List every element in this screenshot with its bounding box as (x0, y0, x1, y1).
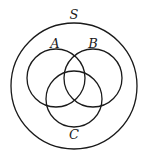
set-label-b: B (87, 36, 98, 51)
set-label-c: C (69, 127, 79, 142)
universe-label-s: S (70, 7, 79, 22)
set-label-a: A (49, 36, 59, 51)
venn-diagram: S A B C (0, 0, 147, 157)
set-circle-c (46, 71, 102, 127)
